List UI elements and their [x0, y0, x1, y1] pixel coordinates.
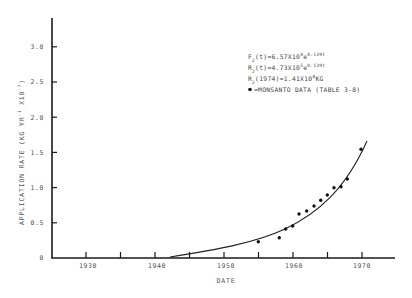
y-tick-label: 3.0: [30, 43, 44, 51]
y-axis-title: APPLICATION RATE (KG YR-1 X10-7): [17, 79, 26, 225]
x-ticks: [86, 252, 362, 258]
y-axis-title-main: APPLICATION RATE (KG YR: [18, 117, 26, 225]
y-tick-label: 2.5: [30, 78, 44, 86]
data-points: [257, 148, 363, 244]
x-tick-label: 1930: [79, 262, 97, 270]
data-point: [312, 204, 315, 207]
y-tick-label: 1.0: [30, 184, 44, 192]
x-tick-label: 1950: [217, 262, 235, 270]
data-point: [359, 148, 362, 151]
y-tick-label: 0: [39, 254, 44, 262]
x-tick-label: 1970: [353, 262, 371, 270]
data-point: [305, 209, 308, 212]
x-axis-title: DATE: [217, 277, 236, 285]
data-point: [284, 227, 287, 230]
data-point: [297, 212, 300, 215]
x-tick-labels: 1930 1940 1950 1960 1970: [79, 262, 371, 270]
legend: F2(t)=6.57X104e0.139t R2(t)=4.73X105e0.1…: [248, 52, 360, 94]
y-tick-labels: 0 0.5 1.0 1.5 2.0 2.5 3.0: [30, 43, 44, 262]
legend-equation-r2: R2(t)=4.73X105e0.139t: [248, 63, 325, 74]
data-point: [278, 236, 281, 239]
fit-curve: [170, 141, 367, 257]
data-point: [257, 240, 260, 243]
x-tick-label: 1960: [285, 262, 303, 270]
data-point: [326, 193, 329, 196]
legend-monsanto-data: =MONSANTO DATA (TABLE 3-8): [254, 86, 360, 93]
data-point: [332, 186, 335, 189]
y-tick-label: 0.5: [30, 219, 44, 227]
data-point: [346, 177, 349, 180]
y-tick-label: 2.0: [30, 114, 44, 122]
data-point: [291, 224, 294, 227]
axes: [51, 18, 395, 258]
legend-r2-1974: R2(1974)=1.41X108KG: [248, 74, 324, 85]
data-point: [339, 185, 342, 188]
y-tick-label: 1.5: [30, 149, 44, 157]
data-point: [319, 199, 322, 202]
chart: 0 0.5 1.0 1.5 2.0 2.5 3.0 1930 1940 1950…: [0, 0, 412, 298]
legend-marker-icon: [248, 88, 252, 92]
x-tick-label: 1940: [148, 262, 166, 270]
legend-equation-f2: F2(t)=6.57X104e0.139t: [248, 52, 325, 63]
